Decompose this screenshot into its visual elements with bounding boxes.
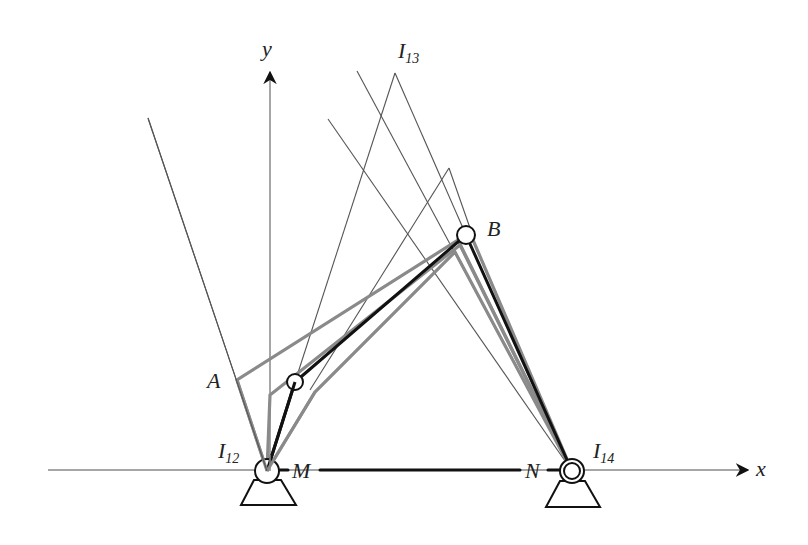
label-N: N: [525, 460, 540, 482]
pivot-circle-right-inner: [564, 463, 580, 479]
ground-support-right: [546, 481, 600, 507]
linkage-diagram: y x I13 B A I12 M N I14: [0, 0, 808, 545]
label-I12: I12: [218, 440, 239, 466]
construction-lines: [148, 71, 572, 471]
coupler: [295, 235, 466, 382]
x-axis-label: x: [756, 458, 766, 480]
label-M: M: [292, 460, 310, 482]
joint-B: [457, 226, 475, 244]
black-linkage: [267, 235, 572, 471]
label-I14: I14: [593, 440, 614, 466]
label-I13: I13: [398, 40, 419, 66]
grey-position-2: [267, 245, 572, 471]
label-A: A: [207, 370, 220, 392]
rocker: [466, 235, 572, 471]
diagram-canvas: [0, 0, 808, 545]
pivot-I14: [546, 459, 600, 507]
y-axis-label: y: [262, 38, 272, 60]
label-B: B: [487, 218, 500, 240]
line-I13-right: [395, 73, 466, 235]
